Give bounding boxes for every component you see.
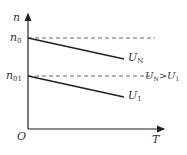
n01-label: n01 <box>6 69 22 83</box>
un-gt-u1-annotation: UN>U1 <box>145 70 179 82</box>
speed-torque-diagram: n T O n0 n01 UN U1 UN>U1 <box>0 0 187 155</box>
n0-label: n0 <box>10 31 22 45</box>
origin-label: O <box>17 130 26 143</box>
u1-curve <box>28 76 124 97</box>
x-axis-label: T <box>152 133 161 146</box>
y-axis-label: n <box>13 11 20 24</box>
un-curve <box>28 38 124 59</box>
un-label: UN <box>128 51 143 65</box>
u1-label: U1 <box>128 89 142 103</box>
